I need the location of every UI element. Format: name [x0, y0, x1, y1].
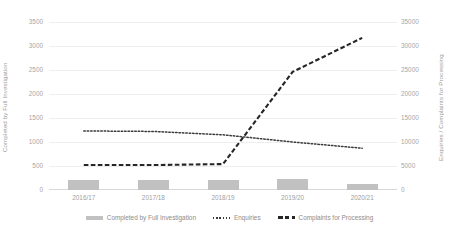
y-axis-right-title: Enquiries / Complaints for Processing — [437, 30, 444, 186]
y-axis-left-title: Completed by Full Investigation — [1, 36, 8, 178]
y-axis-right-tick-label: 0 — [401, 187, 435, 193]
y-axis-right-tick-label: 20000 — [401, 91, 435, 97]
y-axis-right-tick-label: 5000 — [401, 163, 435, 169]
y-axis-left-tick-label: 1500 — [11, 115, 43, 121]
y-axis-left-tick-label: 0 — [11, 187, 43, 193]
legend-item[interactable]: Enquiries — [213, 214, 261, 221]
y-axis-right-tick-label: 15000 — [401, 115, 435, 121]
legend-swatch-dotted — [213, 217, 230, 219]
x-axis-tick-label: 2018/19 — [190, 195, 256, 201]
line-series — [49, 22, 397, 190]
legend-swatch-bar — [86, 216, 103, 220]
legend-swatch-dashed — [278, 216, 295, 219]
line-complaints — [84, 38, 362, 165]
x-axis-tick-label: 2020/21 — [329, 195, 395, 201]
y-axis-right-tick-label: 30000 — [401, 43, 435, 49]
y-axis-left-tick-label: 2000 — [11, 91, 43, 97]
y-axis-left-tick-label: 500 — [11, 163, 43, 169]
chart-legend: Completed by Full InvestigationEnquiries… — [0, 214, 459, 221]
y-axis-left-tick-label: 2500 — [11, 67, 43, 73]
y-axis-right-tick-label: 10000 — [401, 139, 435, 145]
x-axis-tick-label: 2016/17 — [51, 195, 117, 201]
x-axis-tick-label: 2017/18 — [120, 195, 186, 201]
plot-area — [49, 22, 397, 190]
legend-item[interactable]: Completed by Full Investigation — [86, 214, 196, 221]
legend-label: Completed by Full Investigation — [107, 214, 196, 221]
line-enquiries — [84, 131, 362, 148]
y-axis-left-tick-label: 3500 — [11, 19, 43, 25]
y-axis-right-tick-label: 25000 — [401, 67, 435, 73]
legend-item[interactable]: Complaints for Processing — [278, 214, 374, 221]
y-axis-left-tick-label: 3000 — [11, 43, 43, 49]
legend-label: Enquiries — [234, 214, 261, 221]
x-axis-tick-label: 2019/20 — [260, 195, 326, 201]
y-axis-left-tick-label: 1000 — [11, 139, 43, 145]
chart-container: Completed by Full Investigation Enquirie… — [0, 0, 459, 236]
y-axis-right-tick-label: 35000 — [401, 19, 435, 25]
legend-label: Complaints for Processing — [299, 214, 374, 221]
